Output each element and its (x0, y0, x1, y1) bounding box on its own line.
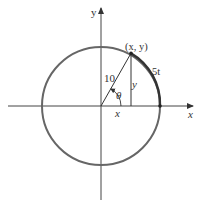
angle-label: θ (116, 89, 122, 101)
circle-diagram: y x (x, y) 5t 10 y θ x (0, 0, 204, 205)
arc-label: 5t (152, 66, 160, 77)
point-label: (x, y) (125, 41, 148, 53)
x-axis-label: x (187, 108, 193, 120)
vertical-leg-label: y (131, 78, 137, 90)
horizontal-leg-label: x (114, 107, 120, 119)
y-axis-label: y (91, 6, 97, 18)
radius-label: 10 (104, 72, 116, 84)
point-start (158, 104, 162, 108)
